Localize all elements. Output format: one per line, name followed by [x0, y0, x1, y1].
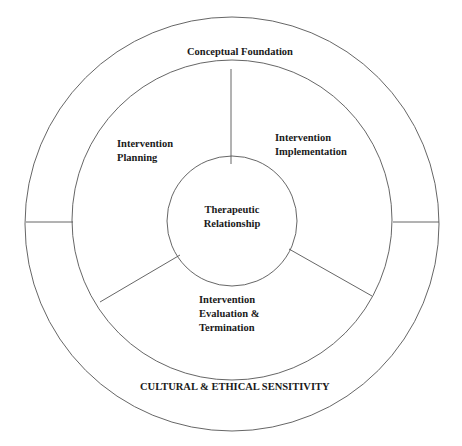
center-line1: Therapeutic	[190, 203, 274, 217]
segment-planning-line1: Intervention	[117, 137, 173, 151]
cultural-ethical-label: CULTURAL & ETHICAL SENSITIVITY	[140, 380, 330, 394]
center-label: Therapeutic Relationship	[190, 203, 274, 231]
segment-evaluation-line1: Intervention	[199, 293, 259, 307]
segment-implementation: Intervention Implementation	[275, 131, 347, 159]
segment-evaluation-line2: Evaluation &	[199, 307, 259, 321]
segment-evaluation-line3: Termination	[199, 321, 259, 335]
segment-evaluation: Intervention Evaluation & Termination	[199, 293, 259, 335]
segment-planning: Intervention Planning	[117, 137, 173, 165]
segment-implementation-line1: Intervention	[275, 131, 347, 145]
segment-implementation-line2: Implementation	[275, 145, 347, 159]
right-spoke	[289, 249, 372, 296]
left-spoke	[100, 255, 180, 302]
segment-planning-line2: Planning	[117, 151, 173, 165]
center-line2: Relationship	[190, 217, 274, 231]
conceptual-foundation-label: Conceptual Foundation	[187, 45, 293, 59]
